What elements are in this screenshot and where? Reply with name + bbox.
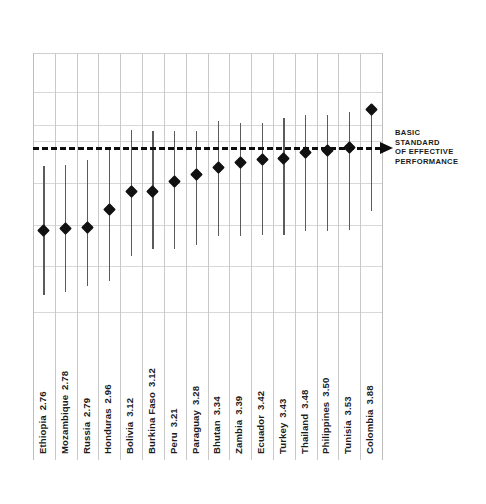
confidence-interval-bar xyxy=(349,112,350,230)
confidence-interval-bar xyxy=(371,109,372,211)
category-label-bhutan: Bhutan3.34 xyxy=(211,314,222,454)
category-value: 2.96 xyxy=(102,384,113,403)
category-name: Turkey xyxy=(277,423,288,454)
category-name: Mozambique xyxy=(59,395,70,454)
category-label-ecuador: Ecuador3.42 xyxy=(255,314,266,454)
diamond-marker xyxy=(103,203,116,216)
confidence-interval-bar xyxy=(283,118,284,235)
category-value: 3.34 xyxy=(211,396,222,415)
category-label-philippines: Philippines3.50 xyxy=(320,314,331,454)
category-name: Paraguay xyxy=(190,410,201,454)
confidence-interval-bar xyxy=(218,121,219,236)
diamond-marker xyxy=(147,185,160,198)
dashed-line xyxy=(33,147,381,150)
category-name: Thailand xyxy=(299,414,310,454)
category-value: 3.12 xyxy=(146,368,157,387)
category-label-russia: Russia2.79 xyxy=(81,314,92,454)
category-name: Ethiopia xyxy=(37,415,48,454)
category-value: 3.50 xyxy=(320,378,331,397)
category-label-tunisia: Tunisia3.53 xyxy=(342,314,353,454)
category-value: 3.53 xyxy=(342,396,353,415)
benchmark-note-line-3: OF EFFECTIVE xyxy=(395,147,485,157)
category-value: 2.79 xyxy=(81,398,92,417)
diamond-marker xyxy=(190,168,203,181)
data-series xyxy=(33,53,382,313)
diamond-marker xyxy=(212,161,225,174)
category-label-bolivia: Bolivia3.12 xyxy=(124,314,135,454)
confidence-interval-bar xyxy=(240,123,241,236)
category-name: Burkina Faso xyxy=(146,392,157,454)
category-name: Peru xyxy=(168,432,179,454)
category-label-mozambique: Mozambique2.78 xyxy=(59,314,70,454)
category-value: 3.48 xyxy=(299,390,310,409)
basic-standard-benchmark-line xyxy=(33,147,381,150)
category-value: 3.28 xyxy=(190,386,201,405)
diamond-marker xyxy=(125,185,138,198)
diamond-marker xyxy=(38,224,51,237)
benchmark-note-line-4: PERFORMANCE xyxy=(395,157,485,167)
category-label-ethiopia: Ethiopia2.76 xyxy=(37,314,48,454)
diamond-marker xyxy=(81,221,94,234)
category-name: Bolivia xyxy=(124,422,135,454)
benchmark-note-line-2: STANDARD xyxy=(395,138,485,148)
category-name: Ecuador xyxy=(255,415,266,454)
diamond-marker xyxy=(365,103,378,116)
category-name: Russia xyxy=(81,422,92,454)
category-label-honduras: Honduras2.96 xyxy=(102,314,113,454)
category-name: Zambia xyxy=(233,420,244,454)
column-separator xyxy=(382,53,383,460)
confidence-interval-bar xyxy=(262,123,263,235)
category-name: Philippines xyxy=(320,402,331,454)
category-label-thailand: Thailand3.48 xyxy=(299,314,310,454)
diamond-marker xyxy=(277,152,290,165)
confidence-interval-chart: BASIC STANDARD OF EFFECTIVE PERFORMANCE … xyxy=(0,0,486,504)
category-label-colombia: Colombia3.88 xyxy=(364,314,375,454)
diamond-marker xyxy=(256,153,269,166)
category-value: 3.21 xyxy=(168,408,179,427)
category-value: 3.43 xyxy=(277,399,288,418)
benchmark-note-line-1: BASIC xyxy=(395,128,485,138)
category-label-peru: Peru3.21 xyxy=(168,314,179,454)
category-label-paraguay: Paraguay3.28 xyxy=(190,314,201,454)
benchmark-annotation: BASIC STANDARD OF EFFECTIVE PERFORMANCE xyxy=(395,128,485,166)
diamond-marker xyxy=(59,222,72,235)
category-name: Honduras xyxy=(102,408,113,454)
confidence-interval-bar xyxy=(327,115,328,231)
diamond-marker xyxy=(234,156,247,169)
category-value: 2.78 xyxy=(59,371,70,390)
diamond-marker xyxy=(168,176,181,189)
category-axis-labels: Ethiopia2.76Mozambique2.78Russia2.79Hond… xyxy=(33,313,382,460)
category-name: Bhutan xyxy=(211,420,222,454)
category-value: 3.88 xyxy=(364,385,375,404)
arrow-right-icon xyxy=(380,142,393,154)
category-value: 3.39 xyxy=(233,396,244,415)
category-label-zambia: Zambia3.39 xyxy=(233,314,244,454)
category-label-turkey: Turkey3.43 xyxy=(277,314,288,454)
category-name: Colombia xyxy=(364,409,375,454)
category-label-burkina-faso: Burkina Faso3.12 xyxy=(146,314,157,454)
category-name: Tunisia xyxy=(342,420,353,454)
category-value: 3.42 xyxy=(255,391,266,410)
confidence-interval-bar xyxy=(305,115,306,231)
category-value: 2.76 xyxy=(37,391,48,410)
category-value: 3.12 xyxy=(124,398,135,417)
